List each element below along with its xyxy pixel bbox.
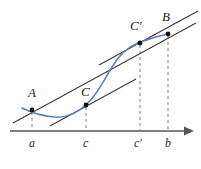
droplines-group — [32, 36, 168, 130]
points-group — [30, 32, 171, 113]
point-b — [166, 32, 171, 37]
label-point-b: B — [162, 9, 170, 24]
x-axis-group — [10, 127, 194, 136]
axis-label-c-prime: c′ — [134, 136, 142, 150]
axis-label-c: c — [83, 136, 89, 150]
axis-label-a: a — [29, 136, 35, 150]
point-labels-group: A C C′ B — [27, 9, 170, 100]
point-a — [30, 108, 35, 113]
point-c-prime — [138, 41, 143, 46]
tangent-line-at-c — [50, 79, 136, 126]
x-axis-arrow-icon — [184, 127, 194, 136]
axis-label-b: b — [165, 136, 171, 150]
function-curve — [22, 34, 168, 117]
axis-tick-labels-group: a c c′ b — [29, 136, 171, 150]
label-point-c: C — [81, 84, 90, 99]
label-point-a: A — [27, 85, 36, 100]
tangent-line-at-c-prime — [99, 11, 198, 65]
mvt-figure: A C C′ B a c c′ b — [0, 0, 201, 169]
mvt-diagram-svg: A C C′ B a c c′ b — [0, 0, 201, 169]
label-point-c-prime: C′ — [130, 18, 142, 33]
point-c — [84, 103, 89, 108]
